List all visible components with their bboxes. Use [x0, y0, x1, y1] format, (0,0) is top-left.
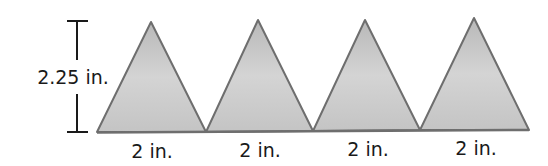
triangle-3 — [313, 20, 420, 131]
triangle-4 — [420, 18, 529, 130]
triangle-net-diagram: 2.25 in. 2 in. 2 in. 2 in. 2 in. — [0, 0, 548, 166]
triangle-2 — [206, 20, 313, 132]
base-label-4: 2 in. — [455, 137, 497, 159]
base-label-1: 2 in. — [131, 140, 173, 162]
height-label: 2.25 in. — [37, 66, 109, 88]
base-label-3: 2 in. — [347, 138, 389, 160]
base-label-2: 2 in. — [239, 139, 281, 161]
triangle-1 — [97, 22, 206, 132]
